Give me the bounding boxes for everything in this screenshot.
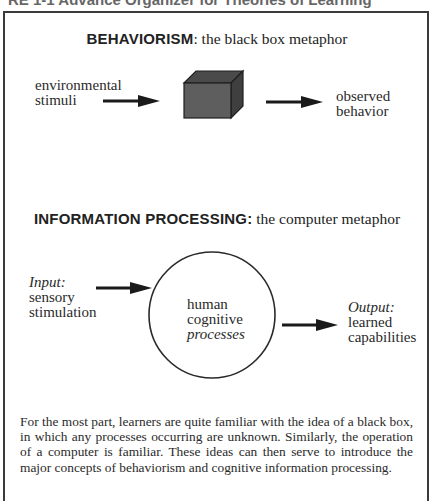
arrow-right-icon bbox=[282, 319, 338, 331]
cognitive-process-circle bbox=[149, 252, 275, 378]
arrow-right-icon bbox=[266, 96, 323, 108]
arrow-right-icon bbox=[96, 282, 152, 294]
explanation-paragraph: For the most part, learners are quite fa… bbox=[20, 414, 413, 475]
black-box-cube-icon bbox=[184, 71, 243, 118]
arrow-right-icon bbox=[103, 95, 160, 107]
